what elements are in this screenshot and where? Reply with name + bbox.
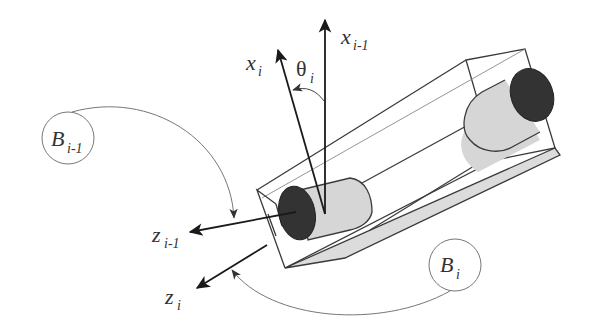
z-i-minus-1-label: z [151,222,161,247]
z-i-minus-1-sub: i-1 [164,236,180,251]
b-i-minus-1-sub: i-1 [67,141,83,156]
body-label-b-i-minus-1: B i-1 [42,107,234,218]
theta-arc [293,88,324,101]
joint-diagram: B i-1 B i x i-1 x i θ i z i-1 z i [0,0,592,331]
b-i-base: B [440,252,453,277]
theta-i-sub: i [310,71,314,86]
x-i-sub: i [258,64,262,79]
b-i-minus-1-base: B [51,126,64,151]
b-i-sub: i [456,267,460,282]
x-i-minus-1-sub: i-1 [353,38,369,53]
z-i-minus-1-axis [190,212,296,232]
x-i-label: x [245,50,256,75]
left-cylinder [274,178,372,243]
axis-labels: x i-1 x i θ i z i-1 z i [151,24,369,313]
z-i-sub: i [177,298,181,313]
theta-i-label: θ [296,56,307,81]
z-i-axis [197,245,267,288]
x-i-minus-1-label: x [340,24,351,49]
z-i-label: z [164,284,174,309]
